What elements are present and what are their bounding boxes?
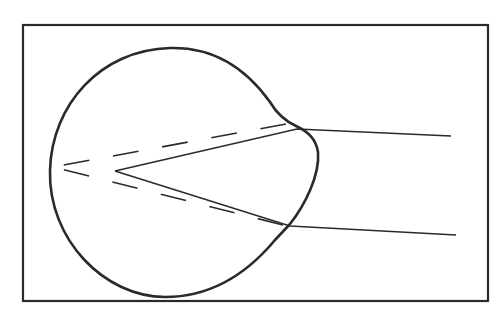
dashed-ray-upper xyxy=(53,124,286,167)
eye-diagram xyxy=(0,0,501,323)
solid-ray-lower xyxy=(115,171,456,235)
dashed-ray-lower xyxy=(53,167,283,225)
solid-ray-upper xyxy=(115,129,451,171)
eyeball-outline xyxy=(50,48,318,297)
